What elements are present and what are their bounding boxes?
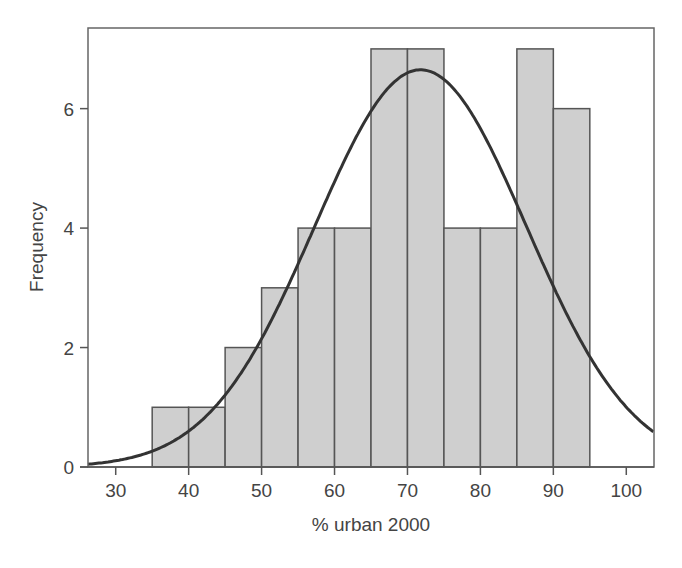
- x-tick-label: 40: [178, 480, 199, 501]
- x-axis-ticks: 30405060708090100: [105, 467, 642, 501]
- x-tick-label: 50: [251, 480, 272, 501]
- y-tick-label: 6: [63, 99, 74, 120]
- histogram-bar: [480, 228, 516, 467]
- x-axis-title: % urban 2000: [312, 514, 430, 535]
- histogram-bar: [225, 348, 261, 467]
- x-tick-label: 60: [324, 480, 345, 501]
- histogram-bar: [517, 49, 553, 467]
- histogram-chart: 30405060708090100 0246 % urban 2000 Freq…: [0, 0, 682, 568]
- histogram-bar: [371, 49, 407, 467]
- histogram-bar: [444, 228, 480, 467]
- y-tick-label: 4: [63, 218, 74, 239]
- histogram-bar: [553, 109, 589, 467]
- histogram-bar: [335, 228, 371, 467]
- histogram-bar: [298, 228, 334, 467]
- x-tick-label: 30: [105, 480, 126, 501]
- x-tick-label: 90: [543, 480, 564, 501]
- y-tick-label: 0: [63, 457, 74, 478]
- y-axis-title: Frequency: [26, 202, 47, 292]
- x-tick-label: 100: [610, 480, 642, 501]
- histogram-bar: [152, 407, 188, 467]
- x-tick-label: 70: [397, 480, 418, 501]
- y-tick-label: 2: [63, 338, 74, 359]
- x-tick-label: 80: [470, 480, 491, 501]
- histogram-bar: [262, 288, 298, 467]
- histogram-bar: [407, 49, 443, 467]
